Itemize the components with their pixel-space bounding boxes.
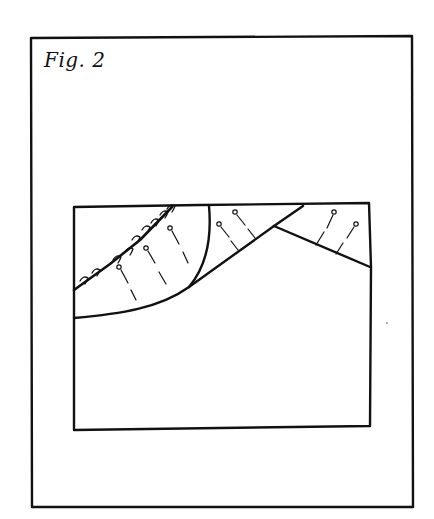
rising-fault bbox=[189, 206, 303, 287]
pin-markers-left-wedge bbox=[117, 226, 188, 300]
right-dipping-fault bbox=[274, 226, 370, 267]
curved-fault bbox=[74, 206, 210, 318]
inner-block-outline bbox=[74, 203, 371, 430]
diagram-canvas bbox=[0, 0, 434, 519]
speck bbox=[386, 322, 387, 323]
figure-caption: Fig. 2 bbox=[44, 48, 106, 72]
outer-frame bbox=[31, 36, 413, 507]
figure-panel: Fig. 2 bbox=[0, 0, 434, 519]
